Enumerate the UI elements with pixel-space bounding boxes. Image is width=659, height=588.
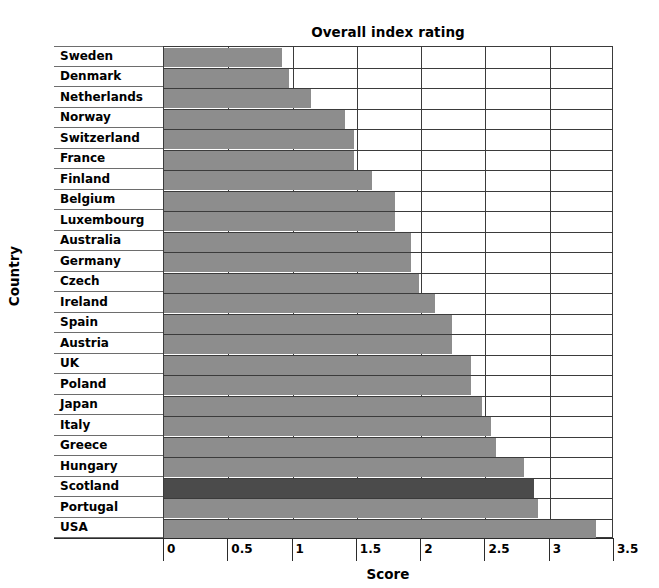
x-axis-ticks: 00.511.522.533.5	[163, 538, 615, 566]
category-label-cell: Netherlands	[54, 87, 163, 108]
gridline-horizontal	[164, 150, 612, 151]
category-label-cell: Japan	[54, 395, 163, 416]
category-label-cell: Sweden	[54, 46, 163, 67]
category-label: Spain	[54, 316, 98, 328]
gridline-horizontal	[164, 273, 612, 274]
category-label: Norway	[54, 111, 111, 123]
category-label-cell: Belgium	[54, 190, 163, 211]
category-label-cell: France	[54, 149, 163, 170]
category-label: Greece	[54, 439, 107, 451]
bar	[164, 48, 282, 68]
gridline-horizontal	[164, 314, 612, 315]
category-label-cell: Switzerland	[54, 128, 163, 149]
bar	[164, 478, 534, 498]
gridline-horizontal	[164, 191, 612, 192]
x-axis-label: Score	[163, 566, 613, 582]
gridline-horizontal	[164, 109, 612, 110]
bar	[164, 212, 395, 232]
bar	[164, 109, 345, 129]
gridline-horizontal	[164, 252, 612, 253]
bar	[164, 130, 354, 150]
gridline-vertical	[550, 47, 551, 537]
gridline-horizontal	[164, 498, 612, 499]
x-tick-label: 3.5	[613, 542, 638, 556]
bar	[164, 417, 491, 437]
category-label: Netherlands	[54, 91, 143, 103]
category-label-cell: Norway	[54, 108, 163, 129]
category-label: Switzerland	[54, 132, 140, 144]
category-label-cell: Czech	[54, 272, 163, 293]
category-label-cell: Greece	[54, 436, 163, 457]
x-tick-label: 2.5	[484, 542, 509, 556]
gridline-horizontal	[164, 375, 612, 376]
category-label-cell: Spain	[54, 313, 163, 334]
category-label-cell: Poland	[54, 374, 163, 395]
x-tick-label: 1.5	[356, 542, 381, 556]
bar	[164, 335, 452, 355]
gridline-horizontal	[164, 170, 612, 171]
category-label: Portugal	[54, 501, 118, 513]
category-label: USA	[54, 521, 88, 533]
bar	[164, 376, 471, 396]
x-tick-label: 1	[292, 542, 304, 556]
gridline-horizontal	[164, 334, 612, 335]
bar	[164, 171, 372, 191]
bar	[164, 273, 419, 293]
category-label-cell: Germany	[54, 251, 163, 272]
category-label: Czech	[54, 275, 100, 287]
bar	[164, 396, 482, 416]
bar	[164, 355, 471, 375]
bar	[164, 150, 354, 170]
category-label-cell: Austria	[54, 333, 163, 354]
gridline-horizontal	[164, 519, 612, 520]
chart-title: Overall index rating	[163, 24, 613, 40]
category-label-cell: Luxembourg	[54, 210, 163, 231]
category-label: Luxembourg	[54, 214, 144, 226]
gridline-horizontal	[164, 211, 612, 212]
gridline-horizontal	[164, 355, 612, 356]
category-label: Germany	[54, 255, 121, 267]
category-label: Australia	[54, 234, 121, 246]
y-axis-label: Country	[6, 236, 22, 316]
bar	[164, 458, 524, 478]
category-label-cell: Portugal	[54, 497, 163, 518]
bar	[164, 191, 395, 211]
gridline-horizontal	[164, 478, 612, 479]
plot-area	[163, 46, 613, 538]
bar	[164, 89, 311, 109]
bar	[164, 253, 411, 273]
bar-chart-figure: Overall index rating Country SwedenDenma…	[0, 0, 659, 588]
category-label: Sweden	[54, 50, 113, 62]
category-label: Denmark	[54, 70, 121, 82]
gridline-horizontal	[164, 457, 612, 458]
gridline-horizontal	[164, 437, 612, 438]
x-tick-label: 3	[549, 542, 561, 556]
gridline-horizontal	[164, 416, 612, 417]
bar	[164, 519, 596, 539]
category-label-cell: Australia	[54, 231, 163, 252]
category-label-cell: Denmark	[54, 67, 163, 88]
category-label-cell: Finland	[54, 169, 163, 190]
gridline-horizontal	[164, 396, 612, 397]
category-label-cell: USA	[54, 518, 163, 539]
category-label-cell: Hungary	[54, 456, 163, 477]
category-label-cell: Scotland	[54, 477, 163, 498]
category-label-cell: UK	[54, 354, 163, 375]
category-label: Austria	[54, 337, 109, 349]
gridline-horizontal	[164, 68, 612, 69]
category-label: Scotland	[54, 480, 119, 492]
category-label: Italy	[54, 419, 90, 431]
gridline-horizontal	[164, 232, 612, 233]
x-tick-label: 0.5	[227, 542, 252, 556]
bar	[164, 294, 435, 314]
category-label: Finland	[54, 173, 110, 185]
x-tick-label: 2	[420, 542, 432, 556]
gridline-horizontal	[164, 88, 612, 89]
category-label-cell: Ireland	[54, 292, 163, 313]
category-label-cell: Italy	[54, 415, 163, 436]
bar	[164, 437, 496, 457]
category-label: Hungary	[54, 460, 118, 472]
x-tick-label: 0	[163, 542, 175, 556]
bar	[164, 232, 411, 252]
bar	[164, 314, 452, 334]
